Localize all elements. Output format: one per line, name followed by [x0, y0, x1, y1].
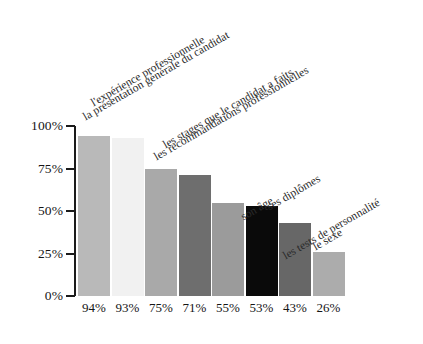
bar — [78, 136, 110, 296]
bar-slot — [279, 126, 313, 296]
bar — [313, 252, 345, 296]
bar — [212, 203, 244, 297]
bar — [145, 169, 177, 297]
bar-slot — [112, 126, 146, 296]
y-axis-tick — [66, 253, 75, 255]
category-label: la présentation générale du candidat — [81, 29, 231, 122]
y-axis-tick-label: 75% — [3, 162, 63, 176]
y-axis-tick — [66, 125, 75, 127]
plot-area — [78, 126, 346, 296]
bar-chart: 0%25%50%75%100% 94%93%75%71%55%53%43%26%… — [0, 0, 423, 344]
bar-slot — [313, 126, 347, 296]
y-axis-tick-label: 0% — [3, 289, 63, 303]
y-axis-tick — [66, 295, 75, 297]
bar-slot — [179, 126, 213, 296]
category-label: l'expérience professionnelle — [89, 34, 207, 109]
bar — [279, 223, 311, 296]
bar — [112, 138, 144, 296]
bar — [179, 175, 211, 296]
y-axis-tick-label: 100% — [3, 119, 63, 133]
bar-value-label: 26% — [309, 301, 349, 314]
bar-slot — [78, 126, 112, 296]
y-axis-tick — [66, 168, 75, 170]
y-axis-tick-label: 50% — [3, 204, 63, 218]
y-axis-tick — [66, 210, 75, 212]
y-axis-tick-label: 25% — [3, 247, 63, 261]
